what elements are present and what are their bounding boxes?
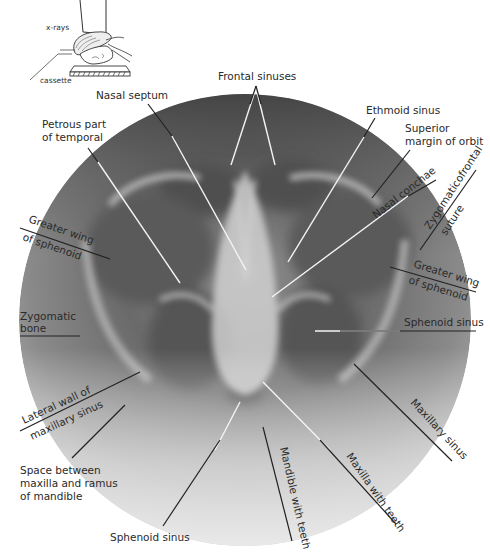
cassette-label: cassette	[40, 76, 72, 85]
sinus-radiograph-diagram: x-rays cassette	[0, 0, 490, 560]
label-petrous-line1: Petrous part	[42, 118, 106, 130]
cassette-icon	[70, 66, 130, 76]
patient-head-icon	[74, 32, 132, 64]
label-zygomatic-bone-line2: bone	[20, 322, 46, 334]
label-sphenoid-sinus-right: Sphenoid sinus	[404, 316, 484, 328]
label-space-between-line1: Space between	[20, 464, 101, 476]
label-sphenoid-sinus-bottom: Sphenoid sinus	[110, 531, 190, 543]
label-space-between-line3: of mandible	[20, 490, 82, 502]
label-petrous-line2: of temporal	[42, 131, 103, 143]
label-space-between-line2: maxilla and ramus	[20, 477, 118, 489]
label-superior-margin-line1: Superior	[405, 122, 450, 134]
xrays-label: x-rays	[46, 23, 69, 32]
label-superior-margin-line2: margin of orbit	[405, 135, 483, 147]
label-nasal-septum: Nasal septum	[96, 89, 168, 101]
xray-tube-icon	[80, 0, 106, 34]
label-zygomatic-bone-line1: Zygomatic	[20, 310, 76, 322]
positioning-inset-illustration: x-rays cassette	[30, 0, 132, 85]
label-frontal-sinuses: Frontal sinuses	[218, 70, 296, 82]
label-ethmoid-sinus: Ethmoid sinus	[366, 104, 440, 116]
